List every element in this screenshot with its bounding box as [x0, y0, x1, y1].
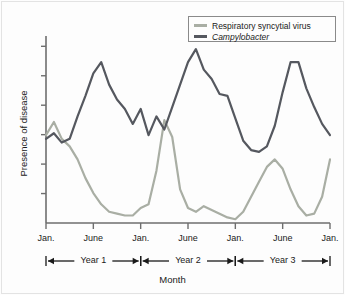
series-line-rsv: [46, 120, 330, 219]
legend-swatch-rsv: [194, 24, 207, 27]
data-series-lines: [46, 49, 330, 219]
x-axis-tick-label: Jan.: [132, 233, 149, 243]
legend-label-campylobacter: Campylobacter: [212, 32, 269, 42]
year-bracket-arrowhead: [322, 258, 328, 264]
year-bracket-arrowhead: [143, 258, 149, 264]
chart-figure: Jan.JuneJan.JuneJan.JuneJan. Presence of…: [0, 0, 345, 295]
year-bracket-arrowhead: [237, 258, 243, 264]
x-axis-tick-label: June: [178, 233, 198, 243]
x-axis-tick-label: Jan.: [321, 233, 338, 243]
year-bracket-label: Year 1: [78, 255, 108, 265]
year-bracket-label: Year 2: [173, 255, 203, 265]
x-axis-tick-label: June: [273, 233, 293, 243]
series-line-campylobacter: [46, 49, 330, 152]
x-axis-tick-label: Jan.: [227, 233, 244, 243]
legend-label-rsv: Respiratory syncytial virus: [212, 21, 311, 31]
x-axis-title: Month: [0, 274, 345, 285]
x-axis-ticks: [46, 223, 330, 229]
x-axis-tick-label: June: [84, 233, 104, 243]
year-bracket-arrowhead: [48, 258, 54, 264]
legend-swatch-campylobacter: [194, 35, 207, 39]
legend-item-campylobacter: Campylobacter: [194, 31, 269, 42]
year-bracket-label: Year 3: [268, 255, 298, 265]
year-bracket-arrowhead: [227, 258, 233, 264]
chart-plot-area: [0, 0, 345, 295]
y-axis-title: Presence of disease: [18, 64, 29, 204]
legend-item-rsv: Respiratory syncytial virus: [194, 20, 311, 31]
x-axis-tick-label: Jan.: [37, 233, 54, 243]
year-bracket-arrowhead: [133, 258, 139, 264]
chart-legend: Respiratory syncytial virus Campylobacte…: [188, 16, 336, 42]
